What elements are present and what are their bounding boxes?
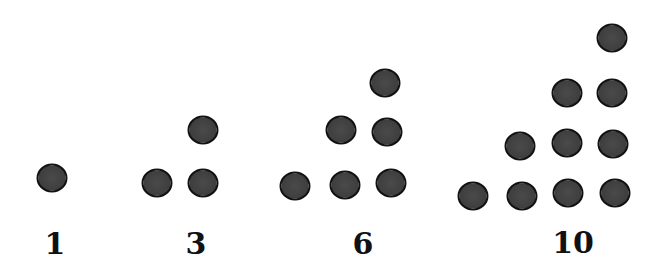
dot xyxy=(598,130,629,159)
triangular-numbers-diagram: 13610 xyxy=(0,0,665,275)
dot xyxy=(37,164,68,193)
dot xyxy=(597,24,628,53)
dot xyxy=(505,132,536,161)
dot xyxy=(326,116,357,145)
group-count-label: 10 xyxy=(552,225,594,260)
group-count-label: 3 xyxy=(186,226,207,261)
dot xyxy=(376,169,407,198)
group-count-label: 6 xyxy=(353,226,374,261)
dot xyxy=(507,182,538,211)
dot xyxy=(597,79,628,108)
group-count-label: 1 xyxy=(45,226,66,261)
dot xyxy=(552,79,583,108)
dot xyxy=(600,179,631,208)
dot xyxy=(552,129,583,158)
dot xyxy=(370,69,401,98)
dot xyxy=(280,172,311,201)
dot xyxy=(188,116,219,145)
dot xyxy=(188,169,219,198)
dot xyxy=(330,171,361,200)
dot xyxy=(458,182,489,211)
dot xyxy=(142,169,173,198)
dot xyxy=(372,118,403,147)
dot xyxy=(553,179,584,208)
